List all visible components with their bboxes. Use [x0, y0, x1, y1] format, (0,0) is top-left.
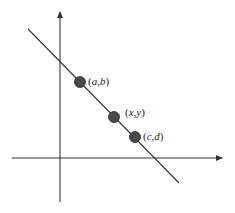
- point-label: (x,y): [125, 106, 145, 119]
- point-c-d: (c,d): [130, 130, 164, 143]
- points-layer: (a,b)(x,y)(c,d): [75, 75, 164, 143]
- point-label: (c,d): [143, 130, 164, 143]
- point-a-b: (a,b): [75, 75, 110, 88]
- point-marker: [109, 112, 120, 123]
- point-marker: [130, 132, 141, 143]
- sloped-line: [28, 29, 179, 183]
- point-label: (a,b): [88, 75, 109, 88]
- point-marker: [75, 77, 86, 88]
- coordinate-diagram: (a,b)(x,y)(c,d): [0, 0, 235, 213]
- point-x-y: (x,y): [109, 106, 146, 123]
